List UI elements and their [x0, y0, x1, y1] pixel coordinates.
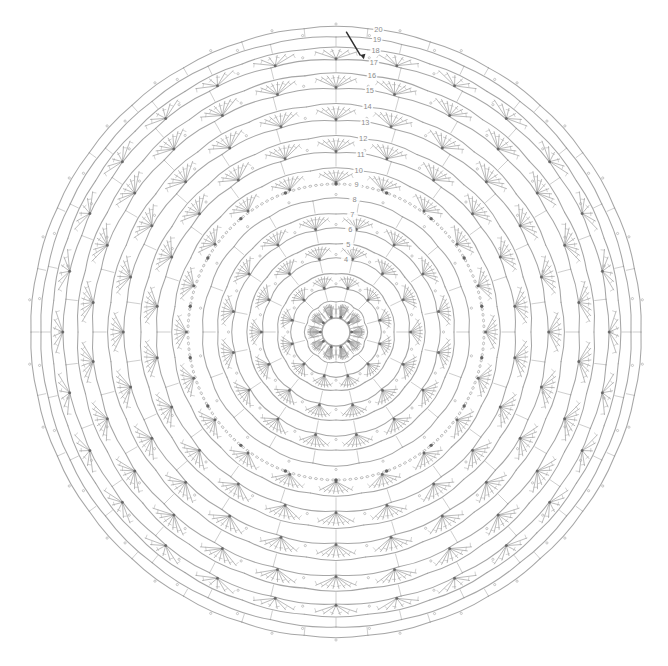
round-connector	[70, 204, 78, 208]
fan-stitch-bar	[288, 579, 291, 581]
fan-stitch-bar	[170, 558, 173, 559]
chain-stitch	[255, 205, 259, 208]
fan-stitch	[218, 482, 238, 484]
fan-stitch-bar	[530, 439, 531, 442]
chain-stitch	[309, 185, 312, 187]
picot-tick	[53, 429, 55, 431]
fan-stitch-bar	[329, 412, 332, 414]
chain-stitch	[448, 235, 451, 239]
shell-arc	[164, 504, 214, 543]
round-connector	[535, 447, 546, 454]
fan-stitch-bar	[157, 392, 159, 395]
chain-stitch	[332, 183, 335, 185]
fan-stitch-bar	[319, 175, 321, 178]
fan-stitch-bar	[83, 341, 86, 343]
fan-stitch-bar	[499, 558, 502, 559]
shell-base-node	[61, 331, 64, 334]
picot-tick	[516, 580, 518, 582]
round-connector	[277, 522, 281, 535]
picot-tick	[430, 102, 432, 104]
shell-base-node	[221, 547, 224, 550]
picot-tick	[335, 283, 337, 285]
fan-stitch-bar	[188, 391, 191, 392]
round-number-label-20: 20	[374, 25, 382, 34]
round-connector	[70, 456, 78, 460]
round-connector	[532, 302, 545, 304]
shell-arc	[352, 389, 381, 403]
picot-tick	[423, 226, 425, 228]
shell-arc	[347, 363, 367, 374]
shell-base-node	[395, 64, 398, 67]
picot-tick	[245, 135, 247, 137]
picot-tick	[382, 460, 384, 462]
fan-stitch	[218, 180, 238, 182]
fan-stitch	[281, 112, 291, 126]
shell-arc	[227, 377, 253, 415]
chain-stitch	[211, 249, 214, 253]
fan-stitch-bar	[524, 345, 526, 348]
fan-stitch-bar	[182, 293, 184, 296]
fan-stitch-bar	[478, 395, 481, 396]
round-connector	[486, 194, 496, 203]
fan-stitch-bar	[611, 281, 613, 284]
shell-base-node	[477, 284, 480, 287]
fan-stitch-bar	[576, 401, 578, 403]
shell-arc	[108, 161, 143, 212]
round-connector	[392, 130, 396, 143]
shell-base-node	[260, 331, 263, 334]
fan-stitch-bar	[300, 436, 301, 439]
round-connector	[152, 101, 158, 108]
fan-stitch-bar	[327, 219, 329, 222]
shell-base-node	[288, 188, 291, 191]
fan-stitch-bar	[327, 521, 330, 523]
fan-stitch	[278, 419, 281, 433]
fan-stitch-bar	[349, 110, 351, 113]
fan-stitch-bar	[476, 163, 479, 164]
picot-tick	[153, 448, 155, 450]
fan-stitch-bar	[391, 182, 393, 185]
fan-stitch-bar	[353, 518, 355, 521]
fan-stitch-bar	[529, 491, 532, 492]
chain-stitch	[276, 466, 280, 469]
shell-base-node	[581, 449, 584, 452]
picot-tick	[335, 23, 337, 25]
shell-base-node	[318, 258, 321, 261]
fan-stitch	[420, 453, 424, 468]
fan-stitch-bar	[168, 241, 171, 242]
shell-arc	[367, 343, 378, 363]
fan-stitch-bar	[94, 255, 96, 258]
fan-stitch-bar	[165, 245, 168, 247]
fan-stitch-bar	[520, 292, 523, 294]
shell-base-node	[347, 340, 350, 343]
round-connector	[460, 590, 464, 598]
round-connector	[595, 363, 606, 364]
fan-stitch	[541, 277, 555, 287]
shell-base-node	[122, 331, 125, 334]
fan-stitch-bar	[510, 407, 511, 410]
fan-stitch-bar	[183, 130, 186, 131]
fan-stitch-bar	[554, 350, 557, 351]
fan-stitch-bar	[401, 153, 402, 156]
round-connector	[57, 208, 64, 211]
round-connector	[144, 244, 156, 249]
picot-tick	[546, 542, 548, 544]
shell-arc	[172, 185, 208, 227]
fan-stitch	[118, 387, 131, 388]
round-7	[218, 214, 455, 451]
shell-base-node	[276, 93, 279, 96]
chain-stitch	[233, 438, 237, 442]
picot-tick	[138, 482, 140, 484]
round-connector	[152, 556, 158, 563]
picot-tick	[418, 495, 420, 497]
fan-stitch-bar	[233, 590, 235, 592]
fan-stitch	[387, 505, 403, 512]
shell-arc	[38, 395, 58, 456]
shell-arc	[359, 447, 402, 463]
fan-stitch	[387, 155, 407, 159]
shell-base-node	[92, 301, 95, 304]
fan-stitch	[230, 211, 248, 214]
fan-stitch-bar	[330, 279, 333, 281]
shell-arc	[560, 177, 590, 235]
picot-tick	[184, 527, 186, 529]
fan-stitch	[208, 148, 229, 149]
